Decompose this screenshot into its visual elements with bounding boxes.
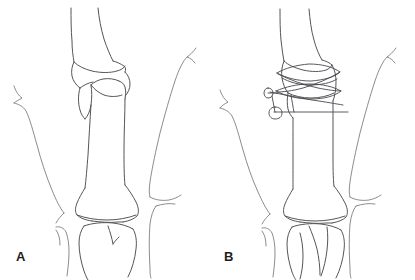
- fracture-site: [72, 61, 130, 119]
- adjacent-joint-bone: [79, 223, 136, 280]
- soft-tissue-contour-right: [349, 48, 396, 278]
- bone-distal-flare: [76, 185, 139, 222]
- fracture-site-reduced: [282, 60, 337, 118]
- panel-a-label: A: [16, 250, 26, 263]
- bone-proximal-fragment: [280, 9, 322, 61]
- adjacent-joint-bone: [287, 224, 344, 280]
- panel-a-illustration: [0, 0, 207, 280]
- bone-distal-flare: [284, 186, 348, 223]
- bone-distal-shaft: [85, 99, 125, 188]
- transfixing-pin-lower-head: [269, 107, 282, 119]
- soft-tissue-contour-right: [149, 48, 196, 278]
- panel-a: A: [0, 0, 207, 280]
- bone-proximal-fragment: [71, 8, 113, 62]
- bone-distal-shaft: [293, 101, 334, 189]
- panel-b-illustration: [208, 0, 415, 280]
- panel-b-label: B: [224, 250, 234, 263]
- soft-tissue-contour-left: [14, 86, 69, 276]
- figure-container: A: [0, 0, 415, 280]
- pin-connector-strut: [272, 96, 275, 112]
- panel-b: B: [208, 0, 415, 280]
